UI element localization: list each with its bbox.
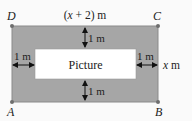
vertex-d-label: D <box>6 9 16 23</box>
vertex-c-dot <box>156 24 160 28</box>
vertex-b-label: B <box>155 105 163 119</box>
top-width-label: (x + 2) m <box>64 9 107 22</box>
top-gap-label: 1 m <box>88 32 105 44</box>
side-height-label: x m <box>162 59 180 71</box>
left-gap-label: 1 m <box>14 50 31 62</box>
vertex-a-dot <box>10 100 14 104</box>
diagram-canvas: Picture D C A B (x + 2) m 1 m 1 m 1 m 1 … <box>0 0 192 121</box>
picture-label: Picture <box>69 58 103 72</box>
vertex-c-label: C <box>153 9 162 23</box>
bottom-gap-label: 1 m <box>88 85 105 97</box>
vertex-b-dot <box>156 100 160 104</box>
vertex-d-dot <box>10 24 14 28</box>
right-gap-label: 1 m <box>137 50 154 62</box>
vertex-a-label: A <box>6 105 15 119</box>
